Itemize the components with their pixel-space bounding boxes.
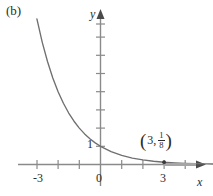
annotation-open-paren: ( bbox=[140, 132, 146, 149]
fraction-numerator: 1 bbox=[158, 131, 164, 140]
marked-point bbox=[162, 160, 166, 164]
y-axis-label: y bbox=[90, 8, 95, 20]
x-tick-label-neg3: -3 bbox=[27, 172, 49, 184]
annotation-comma: , bbox=[153, 134, 156, 146]
y-axis-arrow-icon bbox=[97, 9, 105, 19]
point-annotation: ( 3 , 1 8 ) bbox=[140, 131, 172, 150]
plot-curve bbox=[37, 19, 213, 164]
x-tick-label-three: 3 bbox=[156, 172, 170, 184]
annotation-fraction: 1 8 bbox=[158, 131, 164, 150]
x-axis-label: x bbox=[197, 176, 202, 188]
y-tick-label-one: 1 bbox=[83, 138, 93, 150]
x-tick-label-zero: 0 bbox=[92, 172, 106, 184]
fraction-denominator: 8 bbox=[158, 141, 164, 150]
figure-panel: (b) bbox=[0, 0, 213, 196]
annotation-close-paren: ) bbox=[166, 132, 172, 149]
graph-canvas bbox=[0, 0, 213, 196]
